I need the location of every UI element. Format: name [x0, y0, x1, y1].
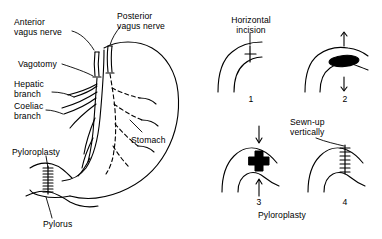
label-pyloroplasty: Pyloroplasty: [12, 147, 60, 157]
label-anterior-vagus-nerve: Anterior vagus nerve: [14, 17, 62, 37]
label-pylorus: Pylorus: [43, 219, 72, 229]
panel-number-4: 4: [334, 197, 356, 207]
label-coeliac-branch: Coeliac branch: [14, 101, 43, 121]
pyloroplasty-suture: [43, 166, 53, 194]
caption-pyloroplasty: Pyloroplasty: [222, 210, 342, 220]
anterior-nerve-branches: [62, 78, 97, 176]
posterior-nerve-branches: [106, 74, 142, 174]
label-vagotomy: Vagotomy: [18, 59, 57, 69]
panel-2-artwork: [305, 32, 368, 92]
surgical-figure: Anterior vagus nerve Posterior vagus ner…: [0, 0, 382, 239]
panel-3-artwork: [222, 126, 279, 196]
panel-number-1: 1: [240, 94, 262, 104]
panel-4-artwork: [308, 138, 365, 192]
label-posterior-vagus-nerve: Posterior vagus nerve: [117, 11, 165, 31]
label-stomach: Stomach: [131, 135, 166, 145]
panel-number-3: 3: [248, 197, 270, 207]
label-sewn-up-vertically: Sewn-up vertically: [290, 117, 325, 137]
label-hepatic-branch: Hepatic branch: [14, 79, 44, 99]
pylorus-outline: [26, 163, 98, 207]
label-horizontal-incision: Horizontal incision: [222, 15, 280, 35]
hepatic-branch-nerve: [74, 86, 97, 97]
anterior-vagus-nerve-trunk: [94, 52, 99, 76]
posterior-vagus-nerve-trunk: [107, 46, 112, 72]
panel-1-artwork: [218, 42, 262, 92]
panel-number-2: 2: [334, 94, 356, 104]
